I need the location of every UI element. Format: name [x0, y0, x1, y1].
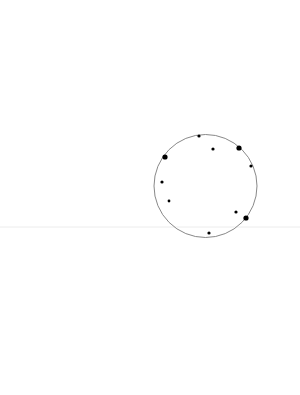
dot — [162, 154, 167, 159]
diagram-canvas — [0, 0, 300, 395]
dots-group — [160, 134, 252, 234]
dot — [236, 145, 241, 150]
dot — [243, 215, 248, 220]
dot — [207, 231, 210, 234]
dot — [211, 147, 214, 150]
dot — [168, 200, 171, 203]
dot — [249, 164, 252, 167]
circle-outline — [154, 135, 257, 238]
dot — [234, 210, 237, 213]
dot — [197, 134, 200, 137]
dot — [160, 180, 163, 183]
